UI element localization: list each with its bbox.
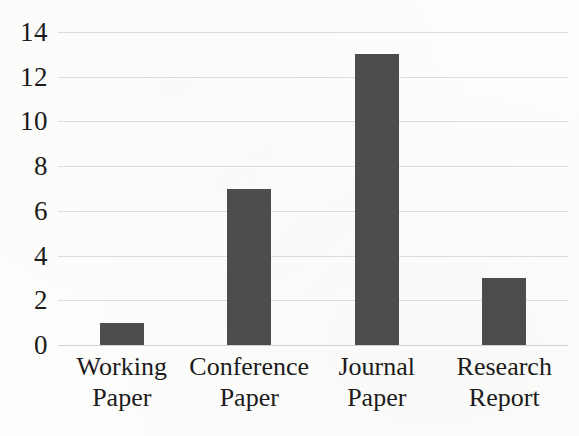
plot-area [58,32,568,345]
x-axis-category-label: ResearchReport [429,352,579,413]
x-axis: WorkingPaperConferencePaperJournalPaperR… [58,352,568,432]
y-axis-tick-label: 8 [0,153,48,180]
y-axis-tick-label: 4 [0,242,48,269]
y-axis-tick-label: 6 [0,197,48,224]
y-axis-tick-label: 2 [0,287,48,314]
y-axis-tick-label: 14 [0,19,48,46]
bar [227,189,271,346]
y-axis-tick-label: 10 [0,108,48,135]
y-axis-tick-label: 12 [0,63,48,90]
axis-baseline [58,345,568,346]
bar [100,323,144,345]
x-axis-label-line-1: Research [457,352,552,381]
bar-chart-figure: 02468101214 WorkingPaperConferencePaperJ… [0,0,579,436]
bar [482,278,526,345]
bars-group [58,32,568,345]
x-axis-label-line-1: Conference [189,352,309,381]
x-axis-label-line-1: Working [77,352,167,381]
y-axis: 02468101214 [0,0,48,436]
y-axis-tick-label: 0 [0,332,48,359]
bar [355,54,399,345]
x-axis-label-line-2: Report [429,383,579,414]
x-axis-label-line-1: Journal [338,352,415,381]
